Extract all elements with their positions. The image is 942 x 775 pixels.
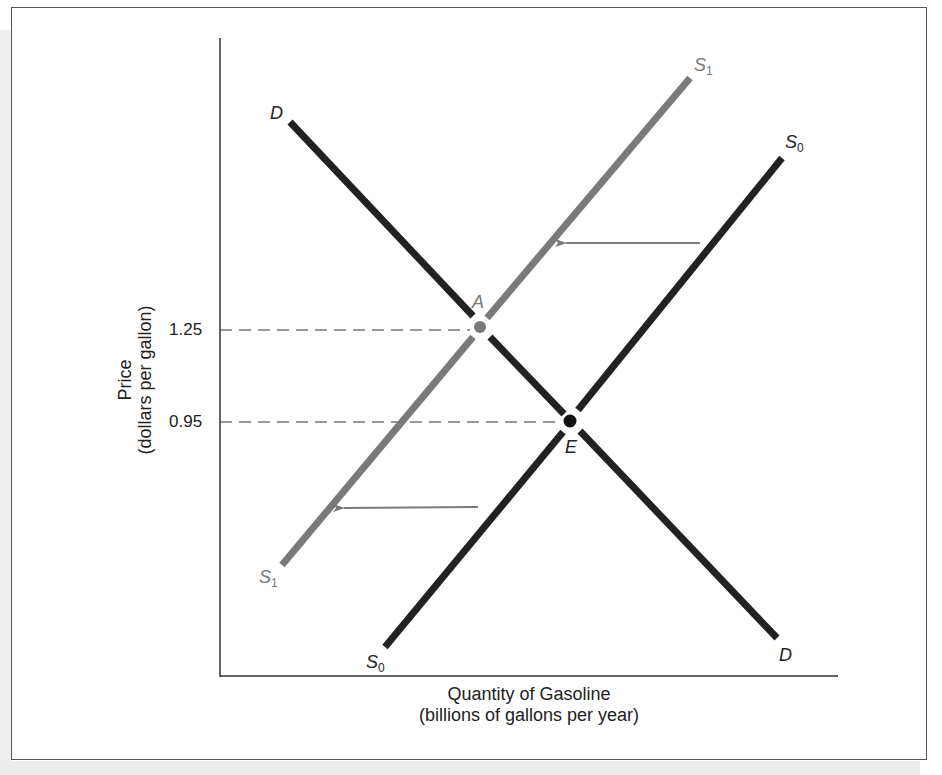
x-axis-title-main: Quantity of Gasoline bbox=[419, 684, 639, 705]
label-d-top: D bbox=[270, 103, 283, 124]
supply-curve-s0 bbox=[385, 432, 563, 647]
supply-curve-s1-upper bbox=[487, 78, 690, 318]
label-point-a: A bbox=[472, 292, 484, 313]
point-a-marker bbox=[474, 321, 486, 333]
label-s0-top-text: S bbox=[785, 132, 797, 152]
label-s1-bottom-sub: 1 bbox=[271, 576, 278, 590]
demand-curve-d bbox=[290, 122, 473, 316]
x-axis-title-sub: (billions of gallons per year) bbox=[419, 705, 639, 726]
label-s0-bottom-sub: 0 bbox=[378, 661, 385, 675]
label-s0-bottom: S0 bbox=[366, 652, 385, 675]
label-s0-top-sub: 0 bbox=[797, 141, 804, 155]
supply-curve-s0-upper bbox=[578, 158, 782, 410]
label-s0-top: S0 bbox=[785, 132, 804, 155]
demand-curve-d-mid bbox=[490, 337, 564, 414]
y-axis-title-sub: (dollars per gallon) bbox=[135, 230, 155, 530]
label-s1-top-sub: 1 bbox=[706, 64, 713, 78]
label-s0-bottom-text: S bbox=[366, 652, 378, 672]
shift-arrow-lower bbox=[344, 507, 478, 508]
label-point-e: E bbox=[565, 437, 577, 458]
y-axis-title-main: Price bbox=[115, 230, 135, 530]
label-s1-bottom: S1 bbox=[259, 567, 278, 590]
y-tick-095: 0.95 bbox=[169, 412, 202, 432]
x-axis-title: Quantity of Gasoline (billions of gallon… bbox=[419, 684, 639, 726]
label-s1-top: S1 bbox=[694, 55, 713, 78]
y-tick-125: 1.25 bbox=[169, 320, 202, 340]
label-d-bottom: D bbox=[779, 645, 792, 666]
label-s1-bottom-text: S bbox=[259, 567, 271, 587]
label-s1-top-text: S bbox=[694, 55, 706, 75]
demand-curve-d-lower bbox=[580, 431, 777, 638]
supply-curve-s1 bbox=[282, 337, 473, 565]
y-axis-title: Price (dollars per gallon) bbox=[115, 230, 155, 530]
point-e-marker bbox=[564, 415, 577, 428]
